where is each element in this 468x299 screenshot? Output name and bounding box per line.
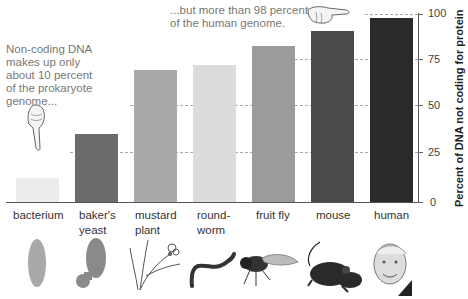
bar-mustard-plant bbox=[134, 70, 177, 202]
category-label-mustard-plant: mustardplant bbox=[135, 208, 177, 238]
mustard-plant-icon bbox=[126, 236, 182, 292]
gridline-25 bbox=[70, 152, 418, 153]
category-label-human: human bbox=[374, 208, 409, 223]
tick-25 bbox=[418, 152, 423, 153]
bar-roundworm bbox=[193, 65, 236, 202]
annotation-line: about 10 percent bbox=[6, 69, 92, 82]
bar-bacterium bbox=[16, 178, 59, 202]
yeast-icon bbox=[74, 236, 110, 292]
tick-75 bbox=[418, 59, 423, 60]
tick-100 bbox=[418, 14, 423, 15]
annotation-line: ...but more than 98 percent bbox=[170, 4, 308, 17]
bar-fruit-fly bbox=[252, 46, 295, 202]
annotation-human: ...but more than 98 percent of the human… bbox=[170, 4, 308, 30]
bar-mouse bbox=[311, 31, 354, 202]
pointing-hand-right-icon bbox=[306, 4, 350, 26]
mouse-icon bbox=[302, 240, 364, 294]
label-line: worm bbox=[197, 223, 230, 238]
label-line: mouse bbox=[316, 208, 351, 223]
gridline-100 bbox=[365, 14, 418, 15]
y-axis-line bbox=[418, 13, 419, 203]
label-line: round- bbox=[197, 208, 230, 223]
bacterium-icon bbox=[24, 236, 50, 290]
tick-label-100: 100 bbox=[428, 7, 446, 19]
annotation-line: of the prokaryote bbox=[6, 82, 92, 95]
category-label-fruit-fly: fruit fly bbox=[256, 208, 290, 223]
annotation-prokaryote: Non-coding DNA makes up only about 10 pe… bbox=[6, 43, 92, 108]
tick-label-50: 50 bbox=[428, 99, 440, 111]
x-axis-baseline bbox=[6, 202, 422, 203]
roundworm-icon bbox=[188, 250, 236, 290]
annotation-line: makes up only bbox=[6, 56, 92, 69]
label-line: baker's bbox=[79, 208, 116, 223]
annotation-line: Non-coding DNA bbox=[6, 43, 92, 56]
category-label-bakers-yeast: baker'syeast bbox=[79, 208, 116, 238]
tick-0 bbox=[418, 202, 423, 203]
fruit-fly-icon bbox=[238, 250, 300, 290]
category-label-bacterium: bacterium bbox=[13, 208, 64, 223]
tick-label-75: 75 bbox=[428, 53, 440, 65]
category-label-mouse: mouse bbox=[316, 208, 351, 223]
human-portrait-icon bbox=[370, 240, 412, 296]
label-line: bacterium bbox=[13, 208, 64, 223]
pointing-hand-down-icon bbox=[24, 104, 50, 152]
tick-label-25: 25 bbox=[428, 146, 440, 158]
y-axis-label: Percent of DNA not coding for protein bbox=[453, 9, 465, 207]
label-line: human bbox=[374, 208, 409, 223]
tick-label-0: 0 bbox=[430, 196, 436, 208]
label-line: mustard bbox=[135, 208, 177, 223]
label-line: fruit fly bbox=[256, 208, 290, 223]
bar-bakers-yeast bbox=[75, 134, 118, 202]
tick-50 bbox=[418, 105, 423, 106]
bar-human bbox=[370, 18, 413, 202]
category-label-roundworm: round-worm bbox=[197, 208, 230, 238]
annotation-line: of the human genome. bbox=[170, 17, 308, 30]
